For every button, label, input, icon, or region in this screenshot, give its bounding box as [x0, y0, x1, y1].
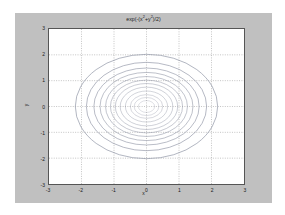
y-tick-label: 0: [31, 104, 45, 110]
x-axis-label: x: [15, 190, 272, 196]
contour-plot-canvas: [49, 29, 244, 184]
y-tick-label: 2: [31, 51, 45, 57]
y-tick-label: -1: [31, 130, 45, 136]
plot-title: exp(-(x2+y2)/2): [15, 14, 272, 23]
plot-title-tail: )/2): [153, 16, 161, 22]
gridlines: [49, 29, 244, 184]
figure-window: exp(-(x2+y2)/2) 3210-1-2-3 -3-2-10123 y …: [15, 13, 272, 203]
y-axis-label: y: [23, 104, 29, 107]
plot-title-lead: exp(-(x: [126, 16, 143, 22]
y-tick-label: 1: [31, 77, 45, 83]
y-tick-label: 3: [31, 25, 45, 31]
plot-axes-box: [48, 28, 245, 185]
y-tick-label: -2: [31, 156, 45, 162]
